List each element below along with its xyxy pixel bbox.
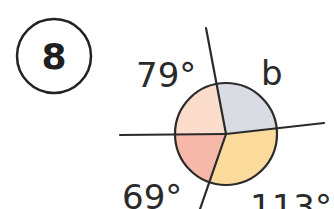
angle-diagram: 8 79° b 69° 113°	[0, 0, 334, 209]
angle-label-top-right: b	[261, 53, 283, 93]
question-number: 8	[41, 36, 66, 77]
angle-label-top-left: 79°	[136, 55, 196, 95]
line-left	[120, 134, 226, 135]
angle-label-bottom-left: 69°	[122, 177, 182, 209]
angle-label-bottom-right: 113°	[250, 187, 332, 209]
question-number-badge: 8	[17, 19, 91, 93]
